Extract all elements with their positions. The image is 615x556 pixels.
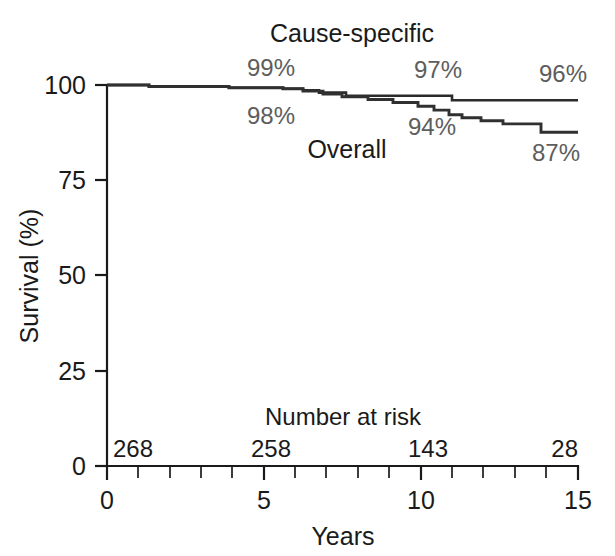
x-tick-label-0: 0 <box>100 486 114 514</box>
annotation-overall-5yr: 98% <box>247 102 295 129</box>
y-tick-label-0: 0 <box>72 452 86 480</box>
series-label-overall: Overall <box>307 135 386 163</box>
x-tick-label-15: 15 <box>564 486 592 514</box>
annotation-cause-specific-5yr: 99% <box>247 54 295 81</box>
chart-title: Cause-specific <box>270 19 434 47</box>
survival-curve-figure: Cause-specific 100 75 50 25 0 Survival (… <box>0 0 615 556</box>
risk-count-year-10: 143 <box>408 435 448 462</box>
annotation-overall-10yr: 94% <box>408 113 456 140</box>
y-tick-label-25: 25 <box>58 357 86 385</box>
risk-count-year-5: 258 <box>251 435 291 462</box>
y-tick-label-50: 50 <box>58 261 86 289</box>
kaplan-meier-plot: Cause-specific 100 75 50 25 0 Survival (… <box>0 0 615 556</box>
y-axis-title: Survival (%) <box>15 209 43 344</box>
x-axis-title: Years <box>311 522 374 550</box>
annotation-overall-15yr: 87% <box>532 139 580 166</box>
risk-count-year-0: 268 <box>113 435 153 462</box>
annotation-cause-specific-10yr: 97% <box>414 56 462 83</box>
risk-count-year-15: 28 <box>551 435 578 462</box>
y-tick-label-100: 100 <box>44 71 86 99</box>
x-tick-label-5: 5 <box>257 486 271 514</box>
x-tick-label-10: 10 <box>407 486 435 514</box>
annotation-cause-specific-15yr: 96% <box>539 60 587 87</box>
y-tick-label-75: 75 <box>58 166 86 194</box>
risk-table-title: Number at risk <box>265 403 422 430</box>
